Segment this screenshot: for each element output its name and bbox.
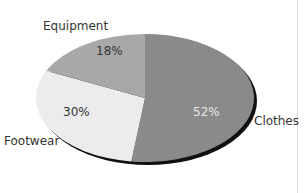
label-footwear: Footwear (4, 135, 59, 147)
pie-slice-clothes (131, 34, 254, 162)
label-clothes: Clothes (254, 115, 299, 127)
value-equipment: 18% (96, 45, 123, 57)
value-footwear: 30% (63, 106, 90, 118)
right-border-line (297, 0, 298, 193)
label-equipment: Equipment (43, 20, 108, 32)
pie-slices (36, 34, 254, 162)
value-clothes: 52% (193, 106, 220, 118)
